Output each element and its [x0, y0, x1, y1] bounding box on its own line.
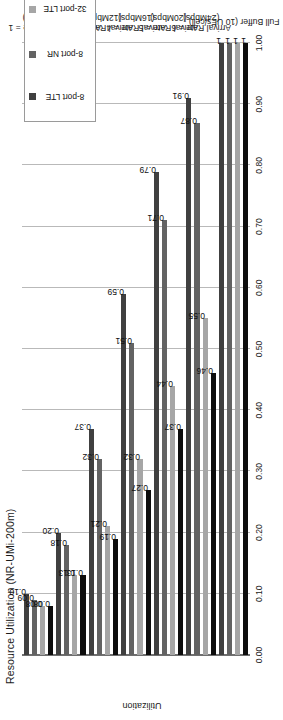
bar-row: 0.37 [178, 43, 183, 655]
bar-8-port-lte[interactable] [56, 533, 61, 655]
bar-32-port-nr[interactable] [113, 539, 118, 655]
bar-row: 0.19 [113, 43, 118, 655]
bar-row: 0.32 [97, 43, 102, 655]
bar-row: 0.87 [194, 43, 199, 655]
bar-row: 1 [243, 43, 248, 655]
bar-32-port-lte[interactable] [235, 43, 240, 655]
bar-32-port-lte[interactable] [40, 606, 45, 655]
bar-group: 1111 [217, 43, 250, 655]
bar-value-label: 0.27 [132, 483, 149, 493]
y-axis-tick-label: 0.90 [254, 84, 264, 124]
y-axis-tick-label: 0.40 [254, 390, 264, 430]
bar-8-port-lte[interactable] [219, 43, 224, 655]
bar-row: 0.71 [162, 43, 167, 655]
bar-8-port-lte[interactable] [186, 98, 191, 655]
y-axis-tick-label: 0.20 [254, 513, 264, 553]
bar-row: 0.79 [154, 43, 159, 655]
chart-figure: Resource Utilization (NR-UMi-200m) Utili… [0, 0, 283, 720]
y-axis-tick-label: 1.00 [254, 23, 264, 63]
y-axis-title-text: Utilization [122, 702, 161, 712]
bar-row: 0.13 [72, 43, 77, 655]
legend-swatch-icon [29, 93, 36, 100]
bar-8-port-nr[interactable] [194, 123, 199, 655]
bar-group: 0.370.320.210.19 [87, 43, 120, 655]
bar-row: 0.44 [170, 43, 175, 655]
bar-32-port-nr[interactable] [211, 373, 216, 655]
bar-value-label: 0.59 [107, 287, 124, 297]
chart-canvas: Resource Utilization (NR-UMi-200m) Utili… [0, 0, 283, 720]
bar-row: 0.37 [89, 43, 94, 655]
legend-item[interactable]: 32-port LTE [29, 0, 91, 31]
bar-row: 0.55 [203, 43, 208, 655]
bar-row: 0.51 [129, 43, 134, 655]
y-axis-tick-label: 0.00 [254, 635, 264, 675]
bar-value-label: 0.91 [172, 91, 189, 101]
y-axis-tick-label: 0.10 [254, 574, 264, 614]
bar-32-port-lte[interactable] [72, 575, 77, 655]
legend-swatch-icon [29, 51, 36, 58]
category-label: Full Buffer (10 UEs/cell) [217, 0, 250, 44]
bar-row: 0.46 [211, 43, 216, 655]
bar-value-label: 0.32 [124, 452, 141, 462]
bar-value-label: 0.13 [67, 568, 84, 578]
legend-swatch-icon [29, 6, 36, 13]
category-label-text: Full Buffer (10 UEs/cell) [188, 17, 279, 27]
bar-value-label: 0.79 [140, 165, 157, 175]
bar-row: 0.08 [48, 43, 53, 655]
bar-row: 0.13 [80, 43, 85, 655]
bar-value-label: 0.51 [115, 336, 132, 346]
bar-row: 0.20 [56, 43, 61, 655]
bar-value-label: 0.71 [148, 213, 165, 223]
bar-value-label: 0.32 [83, 452, 100, 462]
bar-32-port-lte[interactable] [105, 526, 110, 655]
bar-32-port-nr[interactable] [178, 429, 183, 655]
legend-label: 8-port NR [47, 28, 83, 80]
bar-8-port-nr[interactable] [227, 43, 232, 655]
y-axis-tick-label: 0.50 [254, 329, 264, 369]
bar-8-port-lte[interactable] [89, 429, 94, 655]
bar-row: 0.10 [24, 43, 29, 655]
legend-item[interactable]: 8-port LTE [29, 77, 91, 116]
bar-group: 0.200.180.130.13 [55, 43, 88, 655]
y-axis-title: Utilization [0, 700, 283, 714]
bar-32-port-nr[interactable] [243, 43, 248, 655]
bar-group: 0.910.870.550.46 [185, 43, 218, 655]
chart-legend: 8-port LTE8-port NR32-port LTE32-port NR [24, 0, 96, 122]
legend-label: 32-port LTE [43, 0, 86, 36]
y-axis-tick-label: 0.70 [254, 207, 264, 247]
bar-value-label: 0.20 [42, 526, 59, 536]
bar-value-label: 0.37 [75, 422, 92, 432]
bar-value-label: 0.46 [197, 366, 214, 376]
bar-8-port-nr[interactable] [64, 545, 69, 655]
bar-8-port-lte[interactable] [121, 294, 126, 655]
bar-row: 0.27 [146, 43, 151, 655]
bar-row: 1 [235, 43, 240, 655]
bar-row: 0.21 [105, 43, 110, 655]
bar-row: 0.08 [40, 43, 45, 655]
bar-group: 0.790.710.440.37 [152, 43, 185, 655]
bar-row: 0.18 [64, 43, 69, 655]
bar-32-port-nr[interactable] [80, 575, 85, 655]
y-axis-tick-label: 0.30 [254, 451, 264, 491]
plot-area: 0.000.100.200.300.400.500.600.700.800.90… [22, 43, 250, 656]
bar-8-port-nr[interactable] [162, 220, 167, 655]
bar-8-port-nr[interactable] [97, 459, 102, 655]
bar-8-port-lte[interactable] [154, 172, 159, 655]
bar-row: 1 [219, 43, 224, 655]
bar-row: 0.59 [121, 43, 126, 655]
bar-8-port-nr[interactable] [129, 343, 134, 655]
bar-row: 0.09 [32, 43, 37, 655]
legend-item[interactable]: 8-port NR [29, 36, 91, 72]
bar-group: 0.590.510.320.27 [120, 43, 153, 655]
bar-32-port-nr[interactable] [146, 490, 151, 655]
bar-row: 0.32 [137, 43, 142, 655]
bar-row: 0.91 [186, 43, 191, 655]
bar-value-label: 0.44 [156, 379, 173, 389]
bar-value-label: 0.08 [34, 599, 51, 609]
bar-value-label: 0.87 [181, 116, 198, 126]
bar-row: 1 [227, 43, 232, 655]
bar-group: 0.100.090.080.08 [22, 43, 55, 655]
bar-value-label: 0.19 [99, 532, 116, 542]
bar-32-port-nr[interactable] [48, 606, 53, 655]
bar-value-label: 0.21 [91, 519, 108, 529]
